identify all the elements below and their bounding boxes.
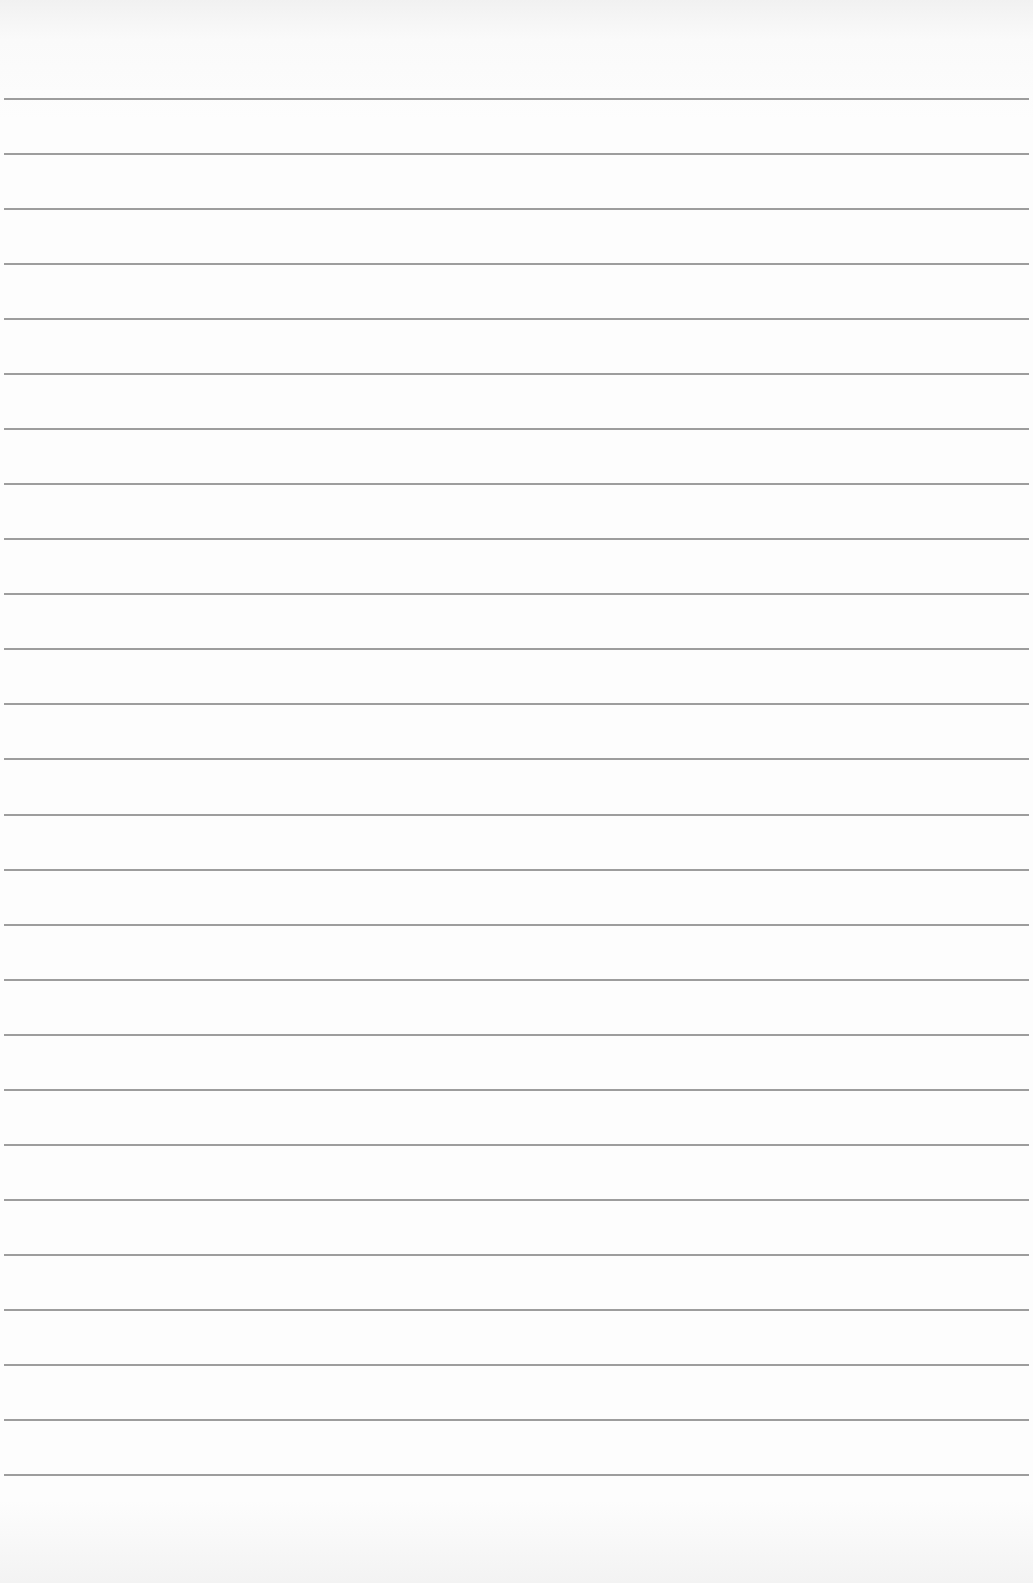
ruled-line — [4, 703, 1029, 705]
ruled-line — [4, 538, 1029, 540]
ruled-line — [4, 1199, 1029, 1201]
ruled-line — [4, 979, 1029, 981]
ruled-line — [4, 153, 1029, 155]
ruled-line — [4, 593, 1029, 595]
ruled-line — [4, 869, 1029, 871]
ruled-line — [4, 1089, 1029, 1091]
lined-paper-sheet — [0, 0, 1033, 1583]
ruled-line — [4, 208, 1029, 210]
ruled-line — [4, 98, 1029, 100]
ruled-line — [4, 1419, 1029, 1421]
ruled-line — [4, 1309, 1029, 1311]
ruled-line — [4, 1474, 1029, 1476]
ruled-line — [4, 1364, 1029, 1366]
ruled-line — [4, 758, 1029, 760]
ruled-line — [4, 428, 1029, 430]
ruled-line — [4, 814, 1029, 816]
ruled-line — [4, 1254, 1029, 1256]
ruled-line — [4, 483, 1029, 485]
ruled-line — [4, 1034, 1029, 1036]
ruled-line — [4, 648, 1029, 650]
ruled-line — [4, 924, 1029, 926]
ruled-line — [4, 318, 1029, 320]
ruled-line — [4, 373, 1029, 375]
ruled-line — [4, 1144, 1029, 1146]
ruled-line — [4, 263, 1029, 265]
